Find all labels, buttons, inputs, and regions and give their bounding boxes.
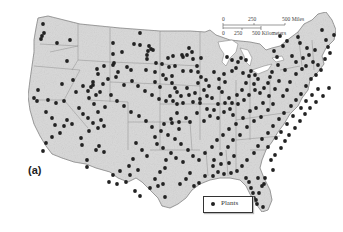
plant-point bbox=[161, 73, 165, 77]
plant-point bbox=[276, 63, 280, 67]
scale-km-500: 500 Kilometers bbox=[252, 30, 286, 36]
plant-point bbox=[131, 157, 135, 161]
plant-point bbox=[44, 141, 48, 145]
plant-point bbox=[125, 65, 129, 69]
plant-point bbox=[227, 127, 231, 131]
plant-point bbox=[35, 99, 39, 103]
plant-point bbox=[144, 68, 148, 72]
plant-point bbox=[111, 52, 115, 56]
plant-point bbox=[170, 74, 174, 78]
plant-point bbox=[191, 57, 195, 61]
plant-point bbox=[184, 177, 188, 181]
plant-point bbox=[150, 125, 154, 129]
plant-point bbox=[195, 64, 199, 68]
plant-point bbox=[189, 69, 193, 73]
plant-point bbox=[281, 44, 285, 48]
plant-point bbox=[192, 184, 196, 188]
plant-point bbox=[154, 61, 158, 65]
plant-point bbox=[305, 46, 309, 50]
plant-point bbox=[291, 114, 295, 118]
plant-point bbox=[269, 158, 273, 162]
plant-point bbox=[257, 191, 261, 195]
plant-point bbox=[204, 78, 208, 82]
scale-miles-500: 500 Miles bbox=[282, 16, 304, 22]
plant-point bbox=[32, 96, 36, 100]
plant-point bbox=[81, 112, 85, 116]
plant-point bbox=[179, 142, 183, 146]
plant-point bbox=[175, 111, 179, 115]
plant-point bbox=[304, 84, 308, 88]
plant-point bbox=[168, 94, 172, 98]
plant-point bbox=[228, 107, 232, 111]
plant-point bbox=[187, 93, 191, 97]
plant-point bbox=[266, 131, 270, 135]
plant-point bbox=[270, 70, 274, 74]
plant-point bbox=[249, 69, 253, 73]
plant-point bbox=[210, 96, 214, 100]
plant-point bbox=[85, 165, 89, 169]
plant-point bbox=[146, 49, 150, 53]
plant-point bbox=[274, 136, 278, 140]
plant-point bbox=[103, 105, 107, 109]
plant-point bbox=[122, 104, 126, 108]
plant-point bbox=[116, 70, 120, 74]
plant-point bbox=[328, 51, 332, 55]
plant-point bbox=[164, 99, 168, 103]
plant-point bbox=[234, 122, 238, 126]
plant-point bbox=[102, 124, 106, 128]
plant-point bbox=[86, 116, 90, 120]
plant-point bbox=[163, 195, 167, 199]
plant-point bbox=[107, 180, 111, 184]
plant-point bbox=[191, 100, 195, 104]
plant-point bbox=[252, 151, 256, 155]
plant-point bbox=[268, 75, 272, 79]
scale-km-250: 250 bbox=[234, 30, 242, 36]
plant-point bbox=[60, 82, 64, 86]
plant-point bbox=[148, 186, 152, 190]
plant-point bbox=[230, 69, 234, 73]
plant-point bbox=[266, 108, 270, 112]
plant-point bbox=[287, 133, 291, 137]
plant-point bbox=[197, 181, 201, 185]
plant-point bbox=[217, 77, 221, 81]
scale-bar: 0 250 500 Miles 0 250 500 Kilometers bbox=[222, 16, 332, 40]
plant-point bbox=[211, 174, 215, 178]
plant-point bbox=[71, 78, 75, 82]
plant-point bbox=[236, 102, 240, 106]
plant-point bbox=[50, 135, 54, 139]
plant-point bbox=[39, 37, 43, 41]
plant-point bbox=[285, 88, 289, 92]
plant-point bbox=[240, 88, 244, 92]
plant-point bbox=[170, 81, 174, 85]
plant-point bbox=[304, 64, 308, 68]
plant-point bbox=[134, 141, 138, 145]
plant-point bbox=[114, 75, 118, 79]
plant-point bbox=[111, 41, 115, 45]
plant-point bbox=[219, 152, 223, 156]
plant-point bbox=[198, 97, 202, 101]
plant-point bbox=[256, 144, 260, 148]
plant-point bbox=[138, 43, 142, 47]
plant-point bbox=[96, 72, 100, 76]
plant-point bbox=[145, 53, 149, 57]
plant-point bbox=[197, 158, 201, 162]
plant-point bbox=[262, 182, 266, 186]
plant-point bbox=[118, 169, 122, 173]
plant-point bbox=[190, 50, 194, 54]
plant-point bbox=[96, 126, 100, 130]
plant-point bbox=[161, 182, 165, 186]
plant-point bbox=[239, 56, 243, 60]
plant-point bbox=[314, 100, 318, 104]
plant-point bbox=[91, 121, 95, 125]
plant-point bbox=[87, 129, 91, 133]
plant-point bbox=[173, 86, 177, 90]
scale-miles-0: 0 bbox=[222, 16, 225, 22]
plant-point bbox=[242, 98, 246, 102]
plant-point bbox=[191, 154, 195, 158]
plant-point bbox=[156, 184, 160, 188]
plant-point bbox=[50, 116, 54, 120]
plant-point bbox=[94, 93, 98, 97]
plant-point bbox=[294, 98, 298, 102]
plant-point bbox=[222, 72, 226, 76]
plant-point bbox=[132, 42, 136, 46]
